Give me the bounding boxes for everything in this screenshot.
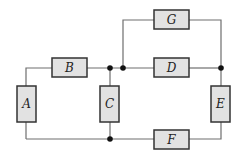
label-g: G bbox=[167, 13, 177, 27]
label-c: C bbox=[105, 97, 114, 111]
wire-e-f bbox=[189, 122, 221, 139]
wire-g-left bbox=[123, 20, 154, 68]
junction-dot bbox=[218, 65, 224, 71]
wires bbox=[26, 20, 221, 139]
component-a: A bbox=[17, 86, 36, 122]
wire-g-right bbox=[189, 20, 221, 68]
label-a: A bbox=[21, 97, 31, 111]
component-f: F bbox=[154, 130, 189, 149]
component-c: C bbox=[100, 86, 119, 122]
component-d: D bbox=[154, 58, 189, 77]
component-g: G bbox=[154, 10, 189, 29]
junction-dot bbox=[120, 65, 126, 71]
label-e: E bbox=[215, 97, 225, 111]
label-f: F bbox=[166, 133, 176, 147]
label-d: D bbox=[166, 61, 177, 75]
wire-a-b bbox=[26, 68, 52, 86]
circuit-diagram: A B C D E F G bbox=[0, 0, 244, 157]
junction-dot bbox=[107, 136, 113, 142]
component-e: E bbox=[211, 86, 230, 122]
component-b: B bbox=[52, 58, 87, 77]
label-b: B bbox=[64, 61, 74, 75]
junction-dot bbox=[107, 65, 113, 71]
